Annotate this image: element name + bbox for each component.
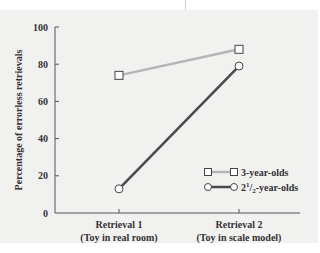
legend-square-icon <box>205 169 212 176</box>
y-axis-title: Percentage of errorless retrievals <box>13 50 24 191</box>
x-category-sublabel: (Toy in scale model) <box>197 232 282 244</box>
square-marker-icon <box>115 71 123 79</box>
legend-label: 21/2-year-olds <box>241 181 298 195</box>
legend: 3-year-olds21/2-year-olds <box>205 167 299 195</box>
y-tick-label: 40 <box>38 133 48 144</box>
circle-marker-icon <box>115 185 123 193</box>
series-line-2-5-year-olds <box>119 66 239 189</box>
x-category-label: Retrieval 2 <box>216 219 263 230</box>
line-chart: 020406080100 Retrieval 1(Toy in real roo… <box>0 0 320 253</box>
y-tick-label: 0 <box>43 208 48 219</box>
y-tick-label: 60 <box>38 96 48 107</box>
series-group <box>115 45 243 193</box>
legend-circle-icon <box>231 184 238 191</box>
square-marker-icon <box>235 45 243 53</box>
circle-marker-icon <box>235 62 243 70</box>
x-category-label: Retrieval 1 <box>96 219 143 230</box>
y-tick-label: 80 <box>38 59 48 70</box>
x-category-sublabel: (Toy in real room) <box>80 232 157 244</box>
y-tick-label: 20 <box>38 170 48 181</box>
legend-square-icon <box>231 169 238 176</box>
y-tick-label: 100 <box>33 22 48 33</box>
series-line-3-year-olds <box>119 49 239 75</box>
legend-label: 3-year-olds <box>241 167 289 178</box>
legend-circle-icon <box>205 184 212 191</box>
x-ticks: Retrieval 1(Toy in real room)Retrieval 2… <box>80 209 281 244</box>
